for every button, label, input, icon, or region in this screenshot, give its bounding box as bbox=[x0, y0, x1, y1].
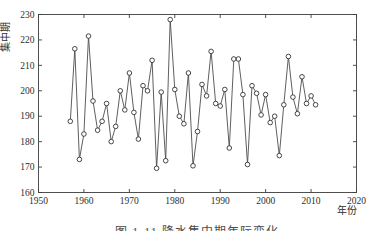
data-point-marker bbox=[263, 92, 268, 97]
data-point-marker bbox=[218, 104, 223, 109]
data-point-marker bbox=[309, 94, 314, 99]
data-point-marker bbox=[68, 119, 73, 124]
x-tick-label: 1970 bbox=[120, 196, 139, 206]
data-point-marker bbox=[277, 153, 282, 158]
data-point-marker bbox=[150, 58, 155, 63]
data-point-marker bbox=[272, 114, 277, 119]
data-point-marker bbox=[104, 101, 109, 106]
data-point-marker bbox=[127, 71, 132, 76]
data-point-marker bbox=[295, 111, 300, 116]
data-point-marker bbox=[177, 114, 182, 119]
data-point-marker bbox=[245, 162, 250, 167]
data-point-marker bbox=[168, 17, 173, 22]
data-point-marker bbox=[304, 101, 309, 106]
x-tick-label: 1990 bbox=[211, 196, 230, 206]
data-point-marker bbox=[154, 166, 159, 171]
x-tick-label: 1980 bbox=[165, 196, 184, 206]
data-point-marker bbox=[223, 87, 228, 92]
data-point-marker bbox=[300, 75, 305, 80]
data-point-marker bbox=[123, 108, 128, 113]
line-chart: 1950196019701980199020002010202016017018… bbox=[0, 0, 384, 231]
y-tick-label: 210 bbox=[20, 61, 35, 71]
data-line bbox=[70, 20, 315, 169]
data-point-marker bbox=[282, 103, 287, 108]
data-point-marker bbox=[259, 113, 264, 118]
data-point-marker bbox=[241, 92, 246, 97]
data-point-marker bbox=[182, 122, 187, 127]
data-point-marker bbox=[82, 132, 87, 137]
data-point-marker bbox=[132, 110, 137, 115]
data-point-marker bbox=[195, 129, 200, 134]
data-point-marker bbox=[77, 157, 82, 162]
y-tick-label: 160 bbox=[20, 188, 35, 198]
data-point-marker bbox=[145, 89, 150, 94]
data-point-marker bbox=[213, 101, 218, 106]
data-point-marker bbox=[113, 124, 118, 129]
data-point-marker bbox=[73, 47, 78, 52]
data-point-marker bbox=[236, 57, 241, 62]
data-point-marker bbox=[186, 71, 191, 76]
data-point-marker bbox=[204, 94, 209, 99]
data-point-marker bbox=[209, 49, 214, 54]
data-point-marker bbox=[136, 137, 141, 142]
figure: 1950196019701980199020002010202016017018… bbox=[0, 0, 384, 231]
data-point-marker bbox=[109, 139, 114, 144]
y-tick-label: 180 bbox=[20, 137, 35, 147]
data-point-marker bbox=[286, 54, 291, 59]
figure-caption: 图 1-11 降水集中期年际变化 bbox=[10, 222, 384, 231]
data-point-marker bbox=[268, 120, 273, 125]
data-point-marker bbox=[254, 91, 259, 96]
data-point-marker bbox=[86, 34, 91, 39]
y-tick-label: 200 bbox=[20, 86, 35, 96]
y-tick-label: 230 bbox=[20, 10, 35, 20]
x-tick-label: 2020 bbox=[347, 196, 366, 206]
data-point-marker bbox=[291, 95, 296, 100]
x-tick-label: 2010 bbox=[302, 196, 321, 206]
data-point-marker bbox=[91, 99, 96, 104]
y-tick-label: 220 bbox=[20, 35, 35, 45]
data-point-marker bbox=[191, 164, 196, 169]
data-point-marker bbox=[232, 57, 237, 62]
data-point-marker bbox=[100, 119, 105, 124]
x-tick-label: 2000 bbox=[256, 196, 275, 206]
y-axis-label: 集中期 bbox=[0, 22, 11, 52]
data-point-marker bbox=[200, 82, 205, 87]
data-point-marker bbox=[159, 90, 164, 95]
data-point-marker bbox=[227, 146, 232, 151]
data-point-marker bbox=[250, 83, 255, 88]
data-point-marker bbox=[313, 103, 318, 108]
data-point-marker bbox=[95, 128, 100, 133]
data-point-marker bbox=[141, 83, 146, 88]
y-tick-label: 170 bbox=[20, 162, 35, 172]
x-tick-label: 1960 bbox=[74, 196, 93, 206]
x-axis-label: 年份 bbox=[337, 204, 357, 216]
data-point-marker bbox=[163, 158, 168, 163]
data-point-marker bbox=[118, 89, 123, 94]
y-tick-label: 190 bbox=[20, 111, 35, 121]
data-point-marker bbox=[173, 87, 178, 92]
